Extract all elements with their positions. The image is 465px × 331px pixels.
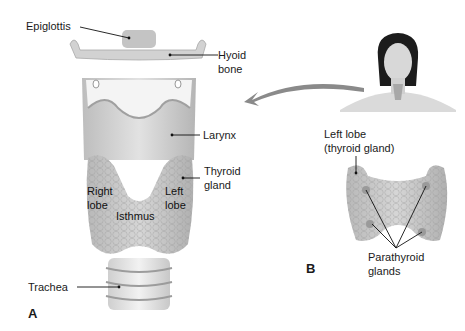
label-left-lobe-b-line1: Left lobe <box>324 128 366 141</box>
label-right-lobe-line1: Right <box>87 185 113 198</box>
thyroid-gland-b <box>346 165 447 241</box>
person-illustration <box>340 33 456 112</box>
label-left-lobe-line1: Left <box>165 185 183 198</box>
label-parathyroid-glands-line2: glands <box>368 265 400 278</box>
hyoid-bone <box>70 30 206 60</box>
label-thyroid-gland-line2: gland <box>204 179 231 192</box>
panel-b-letter: B <box>306 261 315 276</box>
larynx <box>82 78 196 160</box>
panel-a-letter: A <box>28 306 37 321</box>
label-larynx: Larynx <box>203 129 236 142</box>
label-parathyroid-glands-line1: Parathyroid <box>368 251 424 264</box>
label-isthmus: Isthmus <box>116 210 155 223</box>
label-thyroid-gland-line1: Thyroid <box>204 165 241 178</box>
label-left-lobe-line2: lobe <box>165 199 186 212</box>
label-trachea: Trachea <box>28 281 68 294</box>
label-epiglottis: Epiglottis <box>26 20 71 33</box>
label-hyoid-bone-line1: Hyoid <box>218 49 246 62</box>
label-left-lobe-b-line2: (thyroid gland) <box>324 142 394 155</box>
label-right-lobe-line2: lobe <box>87 199 108 212</box>
arrow-icon <box>244 84 364 106</box>
trachea <box>106 258 172 310</box>
label-hyoid-bone-line2: bone <box>218 63 242 76</box>
